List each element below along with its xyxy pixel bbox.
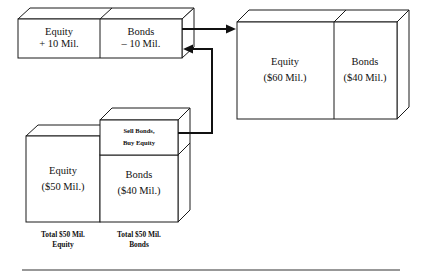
action-slab-label-line1: Sell Bonds, — [123, 127, 155, 134]
initial-equity-label-line2: ($50 Mil.) — [41, 181, 85, 193]
change-equity-label-line1: Equity — [45, 26, 74, 37]
result-block-front-face — [237, 22, 397, 119]
initial-bonds-caption-line1: Total $50 Mil. — [117, 230, 161, 239]
action-slab-front-face — [100, 120, 178, 155]
initial-block: Equity ($50 Mil.) Bonds ($40 Mil.) Sell … — [26, 108, 190, 249]
initial-bonds-caption-line2: Bonds — [129, 240, 149, 249]
initial-equity-label-line1: Equity — [49, 165, 78, 176]
change-to-result-arrowhead — [226, 25, 236, 34]
action-slab-top-face — [100, 108, 190, 120]
change-bonds-label-line1: Bonds — [128, 26, 155, 37]
result-block-top-face — [237, 10, 409, 22]
initial-bonds-label-line1: Bonds — [126, 169, 153, 180]
result-bonds-label-line2: ($40 Mil.) — [343, 72, 387, 84]
initial-equity-front-face — [26, 136, 100, 222]
initial-equity-caption-line1: Total $50 Mil. — [41, 230, 85, 239]
action-slab-label-line2: Buy Equity — [123, 139, 156, 146]
initial-bonds-side-face — [178, 143, 190, 222]
initial-bonds-label-line2: ($40 Mil.) — [117, 185, 161, 197]
financial-recapitalization-diagram: Sell Bonds, Buy Equity recapitalization … — [0, 0, 421, 276]
result-bonds-label-line1: Bonds — [352, 56, 379, 67]
result-equity-label-line2: ($60 Mil.) — [263, 72, 307, 84]
initial-equity-caption-line2: Equity — [52, 240, 74, 249]
initial-equity-top-face — [26, 125, 112, 136]
diagram-canvas: Sell Bonds, Buy Equity recapitalization … — [0, 0, 421, 276]
result-equity-label-line1: Equity — [271, 56, 300, 67]
change-equity-label-line2: + 10 Mil. — [39, 38, 78, 49]
change-block: Equity + 10 Mil. Bonds – 10 Mil. — [18, 8, 194, 58]
result-block-side-face — [397, 10, 409, 119]
result-block: Equity ($60 Mil.) Bonds ($40 Mil.) — [237, 10, 409, 119]
change-bonds-label-line2: – 10 Mil. — [121, 38, 161, 49]
